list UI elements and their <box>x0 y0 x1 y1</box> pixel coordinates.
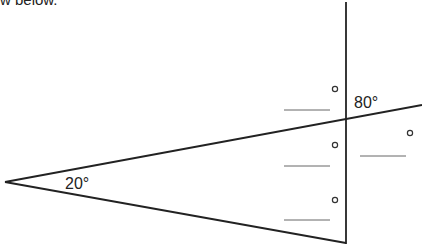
degree-icon <box>407 130 412 135</box>
degree-icon <box>332 197 337 202</box>
angle-label-80: 80° <box>354 94 378 111</box>
angle-label-20: 20° <box>65 175 89 192</box>
upper-ray <box>5 105 422 182</box>
degree-icon <box>332 86 337 91</box>
degree-icon <box>332 142 337 147</box>
lower-ray <box>5 182 346 243</box>
angle-diagram: 80° 20° <box>0 0 422 246</box>
